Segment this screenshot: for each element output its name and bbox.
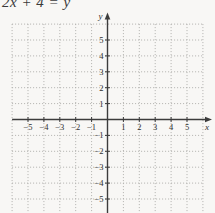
y-tick-label: −3 xyxy=(94,162,103,172)
y-tick-label: −1 xyxy=(94,130,103,140)
worksheet-page: 2x + 4 = y −5−4−3−2−11234554321−1−2−3−4−… xyxy=(0,0,215,213)
y-tick-label: 5 xyxy=(99,35,103,45)
x-tick-label: −4 xyxy=(39,122,49,132)
x-tick-label: −3 xyxy=(55,122,64,132)
y-axis-arrowhead-icon xyxy=(105,13,111,20)
x-tick-label: 1 xyxy=(121,122,125,132)
y-tick-label: 1 xyxy=(99,99,103,109)
y-tick-label: −2 xyxy=(94,146,103,156)
y-axis-label: y xyxy=(98,11,103,21)
x-tick-label: −2 xyxy=(71,122,80,132)
y-tick-label: −5 xyxy=(94,194,103,204)
x-tick-label: 4 xyxy=(169,122,174,132)
coordinate-grid: −5−4−3−2−11234554321−1−2−3−4−5xy xyxy=(0,0,215,213)
x-tick-label: 3 xyxy=(153,122,157,132)
x-tick-label: 5 xyxy=(185,122,189,132)
x-tick-label: 2 xyxy=(137,122,141,132)
y-tick-label: −4 xyxy=(94,178,104,188)
y-tick-label: 2 xyxy=(99,83,103,93)
x-axis-label: x xyxy=(204,122,209,132)
y-tick-label: 3 xyxy=(99,67,103,77)
x-tick-label: −5 xyxy=(23,122,32,132)
y-tick-label: 4 xyxy=(99,51,104,61)
